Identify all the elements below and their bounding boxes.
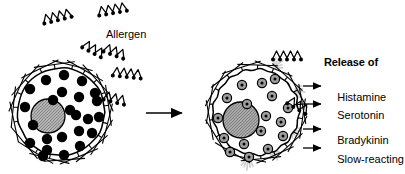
allergen-bead [299, 58, 303, 62]
allergen-bead [97, 13, 102, 18]
granule-core [271, 95, 274, 98]
allergen-bead [121, 56, 126, 61]
granule-filled-10 [75, 141, 85, 151]
granule-core [280, 121, 283, 124]
granule-filled-20 [48, 95, 58, 105]
granule-released-9 [239, 139, 248, 148]
allergen-bead [104, 12, 109, 17]
release-of-heading: Release of [324, 57, 378, 69]
granule-filled-7 [25, 138, 35, 148]
granule-core [260, 130, 263, 133]
granule-filled-2 [77, 76, 87, 86]
granule-core [217, 117, 220, 120]
allergen-bead [118, 74, 122, 78]
allergen-bead [62, 16, 67, 21]
granule-filled-0 [41, 75, 51, 85]
allergen-bead [49, 19, 54, 24]
allergen-molecule-free-1 [96, 2, 129, 18]
granule-filled-11 [87, 128, 97, 138]
granule-released-3 [242, 99, 251, 108]
allergen-bead [115, 101, 120, 106]
granule-released-10 [219, 133, 228, 142]
allergen-molecule-bound-1 [101, 43, 128, 62]
granule-core [265, 115, 268, 118]
allergen-bead [114, 54, 119, 59]
right-cell-nucleus [223, 102, 259, 138]
allergen-bead [278, 58, 282, 62]
allergen-bead [98, 55, 103, 60]
granule-core [267, 148, 270, 151]
allergen-molecule-bound-2 [111, 67, 144, 81]
granule-released-12 [244, 152, 253, 161]
allergen-bead [111, 11, 116, 16]
mediator-label-slow-reacting-substance: Slow-reacting substance [325, 142, 404, 174]
granule-filled-22 [38, 151, 48, 161]
granule-filled-9 [59, 150, 69, 160]
granule-core [261, 82, 264, 85]
granule-filled-5 [20, 102, 30, 112]
allergen-bead [132, 76, 136, 80]
allergen-bead [118, 10, 123, 15]
allergen-bead [107, 51, 112, 56]
granule-core [287, 107, 290, 110]
allergen-label: Allergen [106, 29, 146, 41]
granule-core [274, 78, 277, 81]
allergen-bead [292, 58, 296, 62]
left-cell-group [9, 60, 113, 164]
allergen-bead [125, 8, 130, 13]
mast-cell-degranulation-figure: Allergen Release of Histamine Serotonin … [0, 0, 405, 174]
granule-filled-13 [92, 96, 102, 106]
granule-core [223, 137, 226, 140]
allergen-bead [138, 76, 142, 80]
granule-released-16 [270, 74, 279, 83]
allergen-chain [273, 51, 301, 58]
granule-filled-17 [74, 126, 84, 136]
granule-filled-18 [57, 132, 67, 142]
granule-released-8 [256, 126, 265, 135]
granule-filled-19 [42, 134, 52, 144]
granule-core [241, 84, 244, 87]
allergen-molecule-bound-0 [80, 39, 107, 60]
mediator-name: Slow-reacting [337, 153, 404, 165]
granule-released-4 [267, 91, 276, 100]
allergen-bead [42, 21, 47, 26]
granule-core [229, 151, 232, 154]
granule-filled-21 [83, 114, 93, 124]
granule-filled-12 [94, 112, 104, 122]
allergen-bead [125, 75, 129, 79]
granule-released-13 [263, 144, 272, 153]
granule-core [226, 97, 229, 100]
allergen-bead [285, 58, 289, 62]
granule-released-6 [276, 117, 285, 126]
granule-core [243, 143, 246, 146]
allergen-bead [271, 58, 275, 62]
granule-released-1 [257, 78, 266, 87]
granule-released-2 [222, 93, 231, 102]
allergen-bead [69, 14, 74, 19]
granule-filled-14 [74, 92, 84, 102]
granule-filled-15 [57, 87, 67, 97]
granule-core [282, 135, 285, 138]
allergen-molecule-free-0 [40, 8, 74, 26]
allergen-bead [122, 102, 127, 107]
granule-released-0 [237, 80, 246, 89]
granule-filled-1 [59, 70, 69, 80]
granule-filled-23 [65, 105, 75, 115]
granule-filled-4 [25, 84, 35, 94]
granule-released-7 [261, 111, 270, 120]
mediator-name: Serotonin [337, 109, 384, 121]
granule-filled-6 [28, 120, 38, 130]
right-cell-group [205, 61, 306, 163]
granule-released-11 [225, 147, 234, 156]
granule-core [248, 156, 251, 159]
allergen-bead [56, 18, 61, 23]
granule-core [246, 103, 249, 106]
allergen-bead [111, 73, 115, 77]
granule-released-15 [213, 113, 222, 122]
granule-released-14 [278, 131, 287, 140]
